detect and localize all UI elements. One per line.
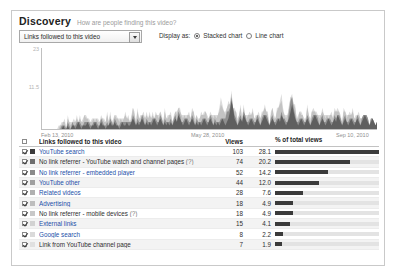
radio-line-chart[interactable]: Line chart xyxy=(246,32,283,39)
row-checkbox-cell[interactable] xyxy=(19,180,30,185)
row-checkbox-cell[interactable] xyxy=(19,149,30,154)
table-row[interactable]: Link from YouTube channel page71.9 xyxy=(19,240,379,250)
row-checkbox-cell[interactable] xyxy=(19,211,30,216)
row-label: No link referrer - mobile devices xyxy=(39,210,128,217)
series-color-swatch xyxy=(30,211,35,216)
row-label[interactable]: External links xyxy=(39,220,76,227)
table-header-row: Links followed to this video Views % of … xyxy=(19,136,379,147)
series-color-swatch xyxy=(30,149,35,154)
row-label-cell[interactable]: Link from YouTube channel page xyxy=(39,241,207,248)
row-label[interactable]: Advertising xyxy=(39,200,70,207)
row-views: 8 xyxy=(207,231,249,238)
row-checkbox-cell[interactable] xyxy=(19,242,30,247)
row-label: Link from YouTube channel page xyxy=(39,241,131,248)
column-header-pct[interactable]: % of total views xyxy=(275,136,322,143)
row-label-cell[interactable]: No link referrer - YouTube watch and cha… xyxy=(39,158,207,165)
table-row[interactable]: YouTube other4412.0 xyxy=(19,178,379,188)
controls-row: Links followed to this video Display as:… xyxy=(19,30,379,44)
discovery-chart: 23 11.5 Feb 13, 2010 May 28, 2010 Sep 10… xyxy=(19,46,379,142)
row-label-cell[interactable]: No link referrer - mobile devices (?) xyxy=(39,210,207,217)
table-row[interactable]: No link referrer - embedded player5214.2 xyxy=(19,168,379,178)
table-row[interactable]: Google search82.2 xyxy=(19,229,379,239)
row-pct-bar-track xyxy=(275,160,379,164)
series-color-swatch xyxy=(30,232,35,237)
row-pct-bar-track xyxy=(275,211,379,215)
row-pct-bar-track xyxy=(275,170,379,174)
table-row[interactable]: External links154.1 xyxy=(19,219,379,229)
row-pct: 1.9 xyxy=(249,241,275,248)
row-label[interactable]: Google search xyxy=(39,231,80,238)
row-label: No link referrer - YouTube watch and cha… xyxy=(39,158,184,165)
row-checkbox[interactable] xyxy=(22,170,27,175)
row-checkbox-cell[interactable] xyxy=(19,232,30,237)
column-header-views[interactable]: Views xyxy=(207,138,249,145)
row-label[interactable]: YouTube search xyxy=(39,148,84,155)
row-pct-bar-track xyxy=(275,150,379,154)
row-label-cell[interactable]: YouTube other xyxy=(39,179,207,186)
table-row[interactable]: No link referrer - YouTube watch and cha… xyxy=(19,157,379,167)
radio-stacked-chart-label: Stacked chart xyxy=(203,32,242,39)
row-checkbox[interactable] xyxy=(22,221,27,226)
row-pct: 2.2 xyxy=(249,231,275,238)
row-checkbox[interactable] xyxy=(22,211,27,216)
row-pct-bar-track xyxy=(275,222,379,226)
row-checkbox[interactable] xyxy=(22,190,27,195)
select-all-checkbox-cell[interactable] xyxy=(19,139,30,144)
table-row[interactable]: Related videos287.6 xyxy=(19,188,379,198)
row-pct-bar-fill xyxy=(275,191,303,195)
radio-stacked-chart-icon[interactable] xyxy=(194,33,200,39)
radio-stacked-chart[interactable]: Stacked chart xyxy=(194,32,242,39)
row-label-cell[interactable]: Google search xyxy=(39,231,207,238)
series-color-swatch xyxy=(30,201,35,206)
series-color-swatch-cell xyxy=(30,180,39,185)
row-label[interactable]: YouTube other xyxy=(39,179,80,186)
row-pct-bar-fill xyxy=(275,222,290,226)
row-label[interactable]: Related videos xyxy=(39,189,81,196)
table-row[interactable]: Advertising184.9 xyxy=(19,198,379,208)
chevron-down-icon[interactable] xyxy=(129,32,140,43)
series-color-swatch-cell xyxy=(30,201,39,206)
dimension-select[interactable]: Links followed to this video xyxy=(19,30,142,43)
row-label-cell[interactable]: External links xyxy=(39,220,207,227)
dimension-select-value: Links followed to this video xyxy=(24,33,100,40)
row-pct: 20.2 xyxy=(249,158,275,165)
row-checkbox[interactable] xyxy=(22,149,27,154)
row-views: 18 xyxy=(207,200,249,207)
row-checkbox-cell[interactable] xyxy=(19,221,30,226)
row-checkbox-cell[interactable] xyxy=(19,170,30,175)
column-header-label[interactable]: Links followed to this video xyxy=(39,138,207,145)
row-pct-bar-fill xyxy=(275,150,379,154)
row-checkbox-cell[interactable] xyxy=(19,159,30,164)
series-color-swatch xyxy=(30,221,35,226)
series-color-swatch-cell xyxy=(30,149,39,154)
column-header-pct-wrap: % of total views xyxy=(275,139,379,143)
help-icon[interactable]: (?) xyxy=(184,158,193,165)
row-pct-bar-fill xyxy=(275,201,293,205)
row-pct: 28.1 xyxy=(249,148,275,155)
series-color-swatch-cell xyxy=(30,232,39,237)
row-checkbox[interactable] xyxy=(22,232,27,237)
radio-line-chart-icon[interactable] xyxy=(246,33,252,39)
row-views: 15 xyxy=(207,220,249,227)
row-checkbox[interactable] xyxy=(22,180,27,185)
row-views: 74 xyxy=(207,158,249,165)
row-label-cell[interactable]: Related videos xyxy=(39,189,207,196)
row-views: 103 xyxy=(207,148,249,155)
row-checkbox-cell[interactable] xyxy=(19,201,30,206)
row-checkbox-cell[interactable] xyxy=(19,190,30,195)
row-label[interactable]: No link referrer - embedded player xyxy=(39,169,135,176)
series-color-swatch xyxy=(30,170,35,175)
series-color-swatch-cell xyxy=(30,221,39,226)
select-all-checkbox[interactable] xyxy=(22,139,27,144)
row-pct-bar-track xyxy=(275,232,379,236)
table-row[interactable]: No link referrer - mobile devices (?)184… xyxy=(19,209,379,219)
row-checkbox[interactable] xyxy=(22,242,27,247)
y-axis-tick-mid: 11.5 xyxy=(19,84,39,90)
row-label-cell[interactable]: YouTube search xyxy=(39,148,207,155)
row-checkbox[interactable] xyxy=(22,159,27,164)
row-label-cell[interactable]: No link referrer - embedded player xyxy=(39,169,207,176)
help-icon[interactable]: (?) xyxy=(128,210,137,217)
row-label-cell[interactable]: Advertising xyxy=(39,200,207,207)
table-row[interactable]: YouTube search10328.1 xyxy=(19,147,379,157)
row-checkbox[interactable] xyxy=(22,201,27,206)
